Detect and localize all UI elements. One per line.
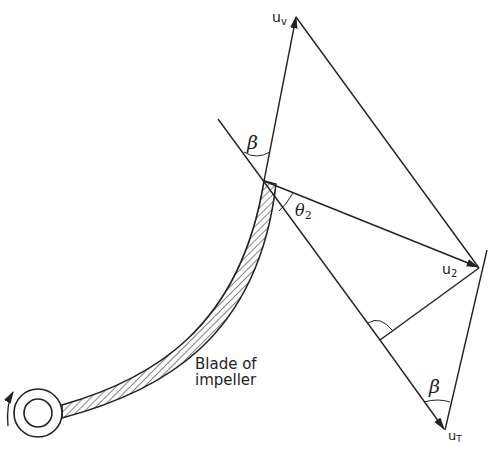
blade-tangent-line (218, 119, 380, 340)
theta2-arc (279, 193, 293, 211)
u2-vector (264, 181, 478, 267)
uv-vector (264, 17, 296, 181)
perpendicular-line (380, 268, 479, 340)
blade-label-line2: impeller (195, 371, 257, 389)
beta-bottom-arc (424, 400, 450, 402)
beta-bottom-label: β (428, 375, 440, 397)
theta2-label: θ2 (295, 201, 312, 222)
uv-label: uv (272, 9, 287, 27)
u2-label: u2 (442, 261, 457, 279)
ut-label: uT (448, 428, 462, 444)
beta-top-label: β (246, 131, 258, 153)
impeller-hub (14, 389, 62, 437)
rotation-arrow-icon (8, 392, 13, 426)
velocity-diagram: uv β θ2 u2 β uT Blade of impeller (0, 0, 491, 451)
